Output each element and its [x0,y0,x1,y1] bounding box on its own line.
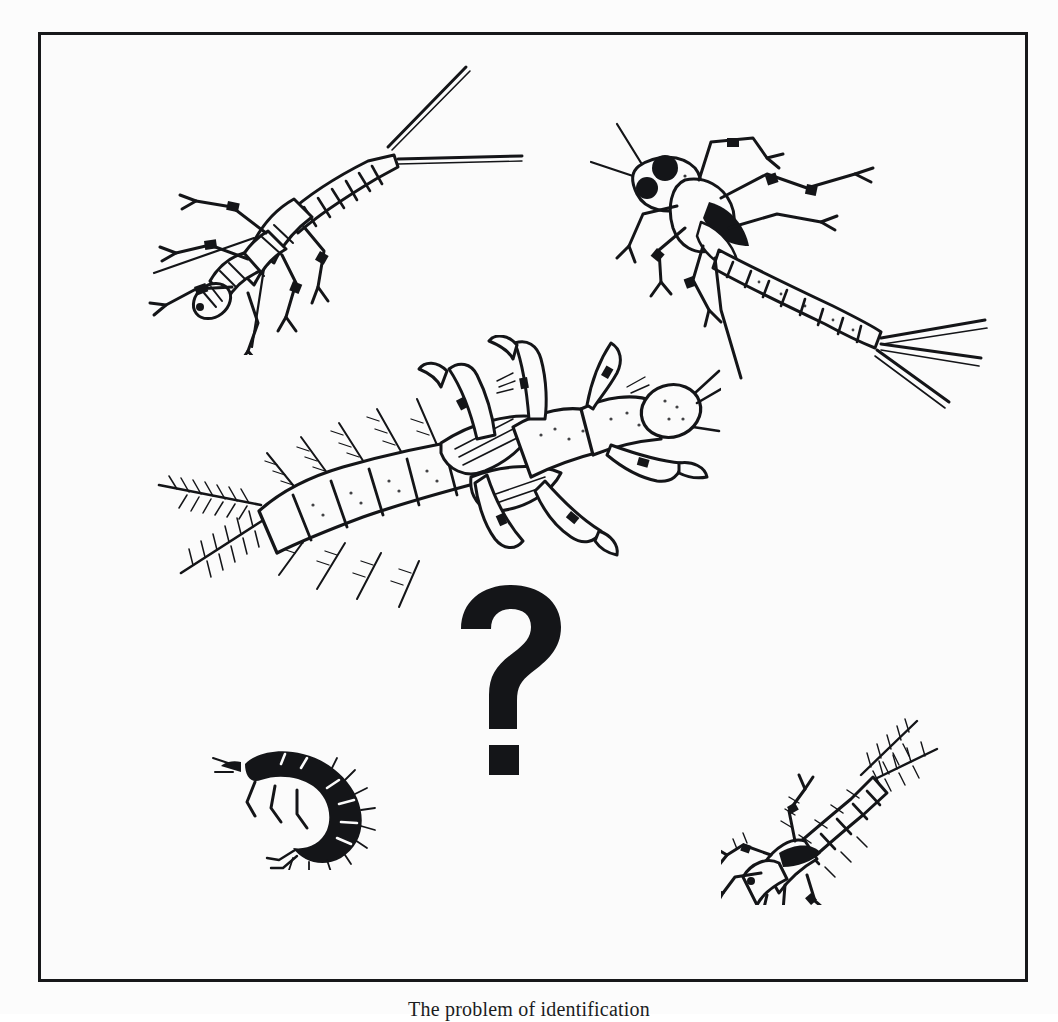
small-curled-larva-illustration [211,730,411,870]
question-mark-overlay [451,583,571,778]
figure-frame [38,32,1028,982]
stonefly-nymph-illustration [136,55,536,355]
dobsonfly-larva-illustration [141,335,721,695]
figure-caption: The problem of identification [0,996,1058,1022]
figure-canvas [41,35,1025,979]
small-nymph-illustration [721,715,951,905]
